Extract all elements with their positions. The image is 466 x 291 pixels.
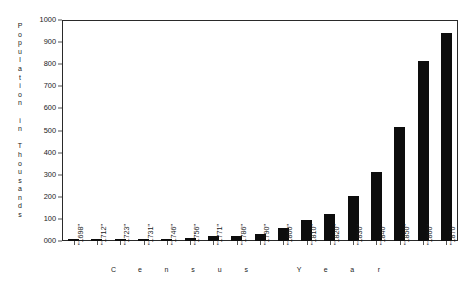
y-tick-label: 600 [22, 105, 56, 112]
x-title-letter: r [378, 266, 380, 273]
x-axis-title: CensusYear [62, 266, 458, 278]
x-tick-label: "1756" [193, 224, 200, 245]
x-tick-mark [144, 241, 145, 245]
x-tick-label: "1820" [333, 224, 340, 245]
bar [418, 61, 429, 241]
x-tick-label: "1860" [426, 224, 433, 245]
x-title-letter: e [324, 266, 328, 273]
x-tick-label: "1746" [170, 224, 177, 245]
y-tick-label: 400 [22, 149, 56, 156]
x-title-letter: a [350, 266, 354, 273]
x-title-letter: n [165, 266, 169, 273]
x-tick-label: "1800" [286, 224, 293, 245]
x-title-letter: u [218, 266, 222, 273]
x-tick-mark [167, 241, 168, 245]
x-tick-mark [74, 241, 75, 245]
bar-chart: Population in Thousands 0001002003004005… [0, 0, 466, 291]
x-tick-mark [400, 241, 401, 245]
y-tick-label: 100 [22, 215, 56, 222]
x-tick-mark [423, 241, 424, 245]
bar-series [62, 20, 458, 241]
bar [441, 33, 452, 241]
y-tick-label: 800 [22, 60, 56, 67]
x-title-letter: Y [297, 266, 302, 273]
x-tick-label: "1810" [310, 224, 317, 245]
x-tick-mark [307, 241, 308, 245]
x-tick-label: "1723" [123, 224, 130, 245]
x-tick-label: "1840" [379, 224, 386, 245]
x-tick-mark [237, 241, 238, 245]
y-tick-label: 900 [22, 38, 56, 45]
x-tick-label: "1830" [356, 224, 363, 245]
x-tick-label: "1712" [100, 224, 107, 245]
y-tick-label: 1000 [22, 16, 56, 23]
x-title-letter: s [191, 266, 195, 273]
x-title-letter: e [138, 266, 142, 273]
x-tick-label: "1850" [403, 224, 410, 245]
x-tick-mark [330, 241, 331, 245]
x-tick-mark [190, 241, 191, 245]
x-tick-mark [97, 241, 98, 245]
x-tick-label: "1698" [77, 224, 84, 245]
x-tick-label: "1870" [449, 224, 456, 245]
y-tick-label: 200 [22, 193, 56, 200]
y-tick-label: 500 [22, 127, 56, 134]
x-tick-label: "1771" [216, 224, 223, 245]
x-title-letter: C [111, 266, 116, 273]
x-tick-label: "1790" [263, 224, 270, 245]
y-tick-label: 300 [22, 171, 56, 178]
x-tick-mark [260, 241, 261, 245]
x-tick-label: "1731" [147, 224, 154, 245]
y-tick-label: 000 [22, 237, 56, 244]
x-title-letter: s [244, 266, 248, 273]
x-tick-label: "1786" [240, 224, 247, 245]
y-tick-label: 700 [22, 83, 56, 90]
